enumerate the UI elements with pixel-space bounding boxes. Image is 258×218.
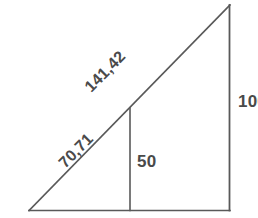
right-side-length-label: 100 — [238, 93, 258, 110]
geometry-canvas — [0, 0, 258, 218]
triangle-diagram: 141,42 70,71 50 100 — [0, 0, 258, 218]
midsegment-length-label: 50 — [137, 153, 156, 170]
